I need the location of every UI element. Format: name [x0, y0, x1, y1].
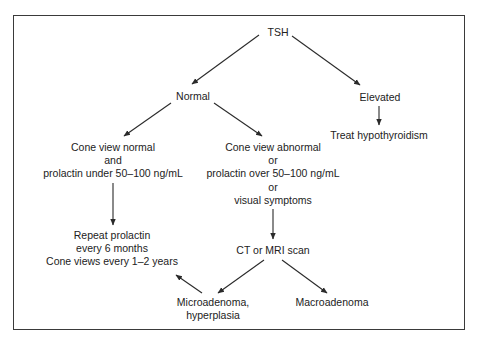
- arrow-normal-to-cone-abnormal: [214, 103, 262, 136]
- node-macroadenoma: Macroadenoma: [296, 296, 369, 309]
- node-cone-abnormal-line-4: or: [206, 181, 339, 194]
- node-elevated: Elevated: [360, 91, 401, 104]
- node-cone-normal-line-1: Cone view normal: [43, 141, 183, 154]
- node-microadenoma: Microadenoma, hyperplasia: [177, 296, 249, 322]
- node-cone-normal-line-3: prolactin under 50–100 ng/mL: [43, 167, 183, 180]
- arrow-tsh-to-elevated: [292, 36, 360, 85]
- node-repeat-line-2: every 6 months: [46, 242, 178, 255]
- node-tsh-text: TSH: [268, 26, 289, 39]
- node-repeat-line-3: Cone views every 1–2 years: [46, 255, 178, 268]
- arrow-micro-to-repeat: [176, 275, 202, 293]
- node-tsh: TSH: [268, 26, 289, 39]
- node-cone-abnormal-line-2: or: [206, 154, 339, 167]
- node-elevated-text: Elevated: [360, 91, 401, 104]
- node-micro-line-1: Microadenoma,: [177, 296, 249, 309]
- node-normal-text: Normal: [176, 90, 210, 103]
- arrow-tsh-to-normal: [192, 35, 259, 84]
- node-cone-normal-line-2: and: [43, 154, 183, 167]
- node-cone-abnormal-line-5: visual symptoms: [206, 194, 339, 207]
- arrow-normal-to-cone-normal: [124, 103, 171, 136]
- node-macro-text: Macroadenoma: [296, 296, 369, 309]
- node-micro-line-2: hyperplasia: [177, 309, 249, 322]
- node-cone-view-abnormal: Cone view abnormal or prolactin over 50–…: [206, 141, 339, 207]
- node-ct-mri-scan: CT or MRI scan: [236, 244, 309, 257]
- node-repeat-prolactin: Repeat prolactin every 6 months Cone vie…: [46, 229, 178, 269]
- node-cone-abnormal-line-1: Cone view abnormal: [206, 141, 339, 154]
- node-ct-mri-text: CT or MRI scan: [236, 244, 309, 257]
- node-cone-view-normal: Cone view normal and prolactin under 50–…: [43, 141, 183, 181]
- node-treat-text: Treat hypothyroidism: [330, 129, 428, 142]
- node-normal: Normal: [176, 90, 210, 103]
- node-repeat-line-1: Repeat prolactin: [46, 229, 178, 242]
- node-cone-abnormal-line-3: prolactin over 50–100 ng/mL: [206, 167, 339, 180]
- arrow-ct-to-micro: [218, 260, 264, 293]
- node-treat-hypothyroidism: Treat hypothyroidism: [330, 129, 428, 142]
- arrow-ct-to-macro: [282, 260, 327, 293]
